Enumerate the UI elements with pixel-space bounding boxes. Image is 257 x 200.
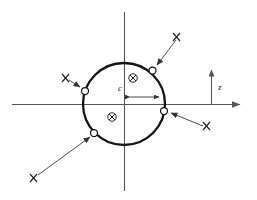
dimension-label-c: c	[118, 84, 122, 93]
figure-canvas: c z	[0, 0, 257, 200]
force-marker-x-left	[62, 74, 69, 82]
force-marker-x-right-lower	[203, 122, 210, 130]
force-marker-x-bottom-left	[30, 174, 37, 182]
diagram-svg	[0, 0, 257, 200]
ring-marker-bottom-left	[91, 130, 98, 137]
force-arrow-top-right	[157, 33, 180, 65]
into-page-symbol-lower	[108, 113, 116, 121]
force-marker-x-top-right	[173, 33, 180, 41]
ring-marker-left	[82, 88, 89, 95]
into-page-symbol-upper	[129, 74, 137, 82]
ring-marker-right	[161, 108, 168, 115]
force-arrow-left	[62, 74, 80, 87]
force-arrow-right-lower	[171, 113, 210, 130]
axis-group	[12, 12, 240, 191]
axis-label-z: z	[218, 83, 222, 92]
force-arrow-bottom-left	[30, 137, 90, 182]
ring-marker-top-right	[149, 67, 156, 74]
